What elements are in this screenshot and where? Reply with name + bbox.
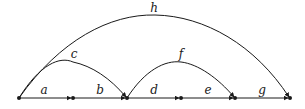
edge-label-h: h bbox=[150, 1, 158, 15]
node-0 bbox=[17, 96, 21, 100]
directed-graph-diagram: a b d e g c f h bbox=[0, 0, 305, 109]
edge-label-d: d bbox=[150, 83, 158, 97]
edge-label-a: a bbox=[40, 83, 47, 97]
edge-label-b: b bbox=[96, 83, 104, 97]
edge-d: d bbox=[127, 83, 179, 98]
node-5 bbox=[288, 96, 292, 100]
edge-e: e bbox=[181, 83, 233, 98]
node-3 bbox=[179, 96, 183, 100]
edge-label-e: e bbox=[204, 83, 211, 97]
edge-a: a bbox=[19, 83, 71, 98]
node-4 bbox=[233, 96, 237, 100]
node-1 bbox=[71, 96, 75, 100]
edge-g: g bbox=[235, 83, 288, 98]
edge-c: c bbox=[19, 47, 126, 98]
edge-f: f bbox=[127, 47, 234, 98]
edge-label-g: g bbox=[258, 83, 266, 97]
edge-b: b bbox=[73, 83, 125, 98]
edge-label-c: c bbox=[71, 47, 78, 61]
edge-label-f: f bbox=[178, 47, 186, 61]
node-2 bbox=[125, 96, 129, 100]
